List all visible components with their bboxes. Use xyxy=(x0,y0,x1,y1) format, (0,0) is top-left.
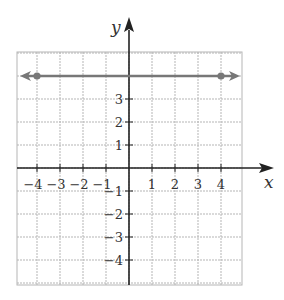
y-tick-label: −3 xyxy=(104,230,123,245)
x-tick-label: 1 xyxy=(148,177,156,192)
data-point-dot xyxy=(217,72,224,79)
y-tick-label: −4 xyxy=(104,253,123,268)
y-tick-label: 2 xyxy=(115,115,123,130)
x-tick-label: −2 xyxy=(69,177,88,192)
y-axis-arrow-icon xyxy=(124,17,134,32)
x-tick-label: 2 xyxy=(171,177,179,192)
x-tick-label: 4 xyxy=(217,177,225,192)
y-tick-label: 3 xyxy=(115,92,123,107)
y-axis-label: y xyxy=(110,17,121,37)
data-point-dot xyxy=(33,72,40,79)
y-tick-label: −1 xyxy=(104,184,123,199)
x-tick-label: −4 xyxy=(23,177,42,192)
tick-labels: −4−3−2−11234−4−3−2−1123 xyxy=(23,92,225,268)
x-tick-label: 3 xyxy=(194,177,202,192)
y-tick-label: 1 xyxy=(115,138,123,153)
y-tick-label: −2 xyxy=(104,207,123,222)
x-tick-label: −3 xyxy=(46,177,65,192)
axes xyxy=(17,17,274,285)
series-line-y-equals-4 xyxy=(20,71,240,81)
coordinate-plane: −4−3−2−11234−4−3−2−1123 x y xyxy=(0,0,284,300)
x-axis-label: x xyxy=(264,172,274,192)
